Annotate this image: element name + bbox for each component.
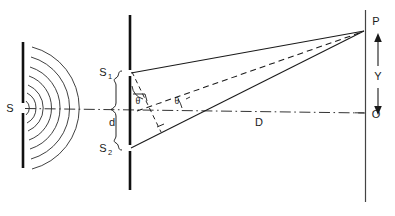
double-slit-diagram: S S 1 S 2 d D P O Y θ θ (0, 0, 395, 216)
dashed-ray-from-midpoint-to-point-p (137, 32, 362, 111)
label-distance-d: D (255, 116, 263, 128)
dash-dot-optic-axis (25, 109, 366, 114)
theta-axis-guide (186, 97, 190, 99)
label-slit-1-subscript: 1 (108, 72, 112, 81)
label-slit-1: S (99, 66, 106, 78)
label-slit-2: S (99, 142, 106, 154)
circular-wavefronts (26, 47, 79, 169)
label-point-p: P (372, 15, 379, 27)
label-theta-axis: θ (175, 95, 180, 106)
label-fringe-distance-y: Y (374, 70, 382, 82)
label-slit-separation: d (109, 116, 115, 128)
label-theta-slits: θ (136, 95, 141, 106)
ray-from-slit1-to-point-p (131, 31, 364, 73)
label-source: S (6, 102, 13, 114)
label-point-o: O (372, 108, 381, 120)
slit-separation-brace (111, 71, 122, 150)
ray-from-slit2-to-point-p (131, 31, 364, 148)
label-slit-2-subscript: 2 (108, 148, 112, 157)
diagram-canvas: S S 1 S 2 d D P O Y θ θ (0, 0, 395, 216)
